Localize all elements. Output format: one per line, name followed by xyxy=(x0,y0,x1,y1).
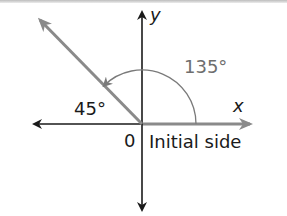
angle-45-label: 45° xyxy=(74,98,106,119)
origin-label: 0 xyxy=(124,130,135,151)
initial-side-label: Initial side xyxy=(149,131,241,152)
y-axis-label: y xyxy=(150,4,161,25)
x-axis-label: x xyxy=(233,95,244,116)
angle-135-label: 135° xyxy=(184,56,227,77)
angle-diagram: y 135° x 45° 0 Initial side xyxy=(0,0,287,216)
angle-arc xyxy=(104,70,196,124)
